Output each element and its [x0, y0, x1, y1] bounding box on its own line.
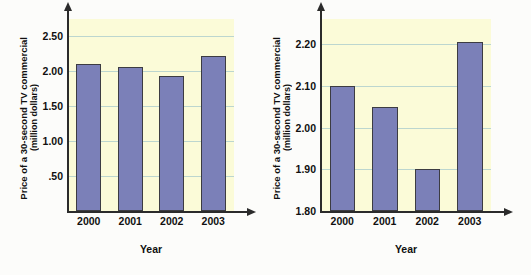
bar-2003: [457, 42, 483, 211]
bar-2000: [330, 86, 356, 211]
x-axis-arrow-icon: [504, 208, 513, 216]
x-tick-label-2001: 2001: [373, 215, 396, 227]
x-tick-label-2003: 2003: [202, 215, 225, 227]
y-tick-label: .50: [48, 170, 63, 182]
y-tick-label: 2.00: [296, 122, 316, 134]
y-tick-label: 2.00: [43, 65, 63, 77]
y-axis-line-right: [320, 10, 322, 213]
x-axis-line-right: [320, 211, 504, 213]
y-tick-label: 2.20: [296, 38, 316, 50]
bar-2003: [201, 56, 226, 211]
bar-chart-right: Price of a 30-second TV commercial (mill…: [265, 0, 531, 275]
y-tick-label: 1.50: [43, 100, 63, 112]
bar-2002: [415, 169, 441, 211]
x-tick-label-2002: 2002: [160, 215, 183, 227]
x-tick-label-2001: 2001: [119, 215, 142, 227]
x-axis-title-right: Year: [395, 243, 417, 255]
y-tick-label: 1.90: [296, 163, 316, 175]
y-axis-tick-labels-right: 1.801.902.002.102.20: [271, 0, 316, 275]
figure-container: Price of a 30-second TV commercial (mill…: [0, 0, 531, 275]
y-tick-label: 1.00: [43, 135, 63, 147]
y-axis-arrow-icon: [317, 2, 325, 11]
x-axis-line-left: [67, 211, 247, 213]
y-axis-arrow-icon: [64, 2, 72, 11]
x-tick-label-2003: 2003: [458, 215, 481, 227]
y-axis-line-left: [67, 10, 69, 213]
bar-2000: [76, 64, 101, 211]
x-axis-arrow-icon: [247, 208, 256, 216]
gridline: [68, 36, 234, 37]
plot-area-right: [321, 19, 491, 211]
bar-2002: [159, 76, 184, 211]
bar-2001: [372, 107, 398, 211]
plot-area-left: [68, 19, 234, 211]
y-tick-label: 1.80: [296, 205, 316, 217]
bar-chart-left: Price of a 30-second TV commercial (mill…: [0, 0, 265, 275]
x-tick-label-2002: 2002: [416, 215, 439, 227]
y-tick-label: 2.50: [43, 30, 63, 42]
y-axis-tick-labels-left: .501.001.502.002.50: [18, 0, 63, 275]
x-tick-label-2000: 2000: [331, 215, 354, 227]
y-tick-label: 2.10: [296, 80, 316, 92]
bar-2001: [118, 67, 143, 211]
x-axis-title-left: Year: [140, 243, 162, 255]
x-tick-label-2000: 2000: [77, 215, 100, 227]
